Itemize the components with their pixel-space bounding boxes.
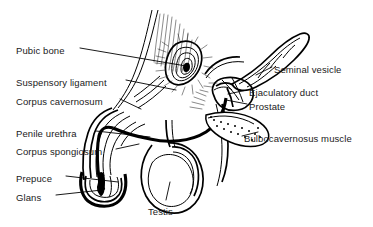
label-prostate-text: Prostate: [249, 101, 285, 112]
label-pubic-bone: Pubic bone: [16, 45, 65, 56]
urethra-structure: [97, 98, 226, 190]
pubic-bone-hatching: [155, 33, 213, 95]
label-suspensory-ligament: Suspensory ligament: [16, 77, 107, 88]
vas-deferens: [214, 83, 233, 90]
label-seminal-vesicle-text: Seminal vesicle: [274, 64, 342, 75]
label-pubic-bone-text: Pubic bone: [16, 45, 65, 56]
label-testis-text: Testis: [148, 206, 173, 217]
label-prepuce-text: Prepuce: [16, 173, 52, 184]
scrotum-and-testis: [141, 120, 203, 213]
label-seminal-vesicle: Seminal vesicle: [274, 64, 342, 75]
anatomy-figure: Pubic bone Suspensory ligament Corpus ca…: [0, 0, 373, 227]
label-ejaculatory-duct-text: Ejaculatory duct: [249, 87, 318, 98]
label-corpus-spongiosum-text: Corpus spongiosum: [16, 146, 102, 157]
label-prostate: Prostate: [249, 101, 285, 112]
glans-and-prepuce: [81, 172, 126, 206]
label-prepuce: Prepuce: [16, 173, 52, 184]
label-bulbocavernosus-muscle: Bulbocavernosus muscle: [244, 133, 352, 144]
label-penile-urethra: Penile urethra: [16, 128, 77, 139]
label-corpus-cavernosum-text: Corpus cavernosum: [16, 96, 103, 107]
label-corpus-spongiosum: Corpus spongiosum: [16, 146, 102, 157]
bladder-base: [205, 57, 244, 78]
label-penile-urethra-text: Penile urethra: [16, 128, 77, 139]
label-glans: Glans: [16, 192, 41, 203]
penis-shaft: [83, 108, 145, 180]
label-glans-text: Glans: [16, 192, 41, 203]
label-suspensory-ligament-text: Suspensory ligament: [16, 77, 107, 88]
suspensory-ligament-structure: [134, 76, 166, 108]
label-testis: Testis: [148, 206, 173, 217]
label-corpus-cavernosum: Corpus cavernosum: [16, 96, 103, 107]
label-ejaculatory-duct: Ejaculatory duct: [249, 87, 318, 98]
anatomy-illustration: [0, 0, 373, 227]
label-bulbocavernosus-muscle-text: Bulbocavernosus muscle: [244, 133, 352, 144]
